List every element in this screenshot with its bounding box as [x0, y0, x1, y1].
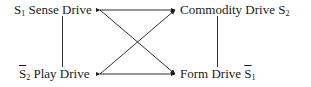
node-play-drive: S2 Play Drive [19, 66, 89, 85]
node-sense-drive: S1 Sense Drive [14, 2, 92, 21]
node-commodity-drive: Commodity Drive S2 [180, 2, 289, 21]
node-form-drive: Form Drive S1 [180, 66, 256, 85]
node-label: Commodity Drive [180, 2, 275, 17]
node-symbol: S [244, 66, 251, 81]
node-label: Sense Drive [28, 2, 91, 17]
drive-diagram: S1 Sense Drive Commodity Drive S2 S2 Pla… [0, 0, 311, 87]
node-label: Form Drive [180, 66, 241, 81]
node-label: Play Drive [33, 66, 89, 81]
